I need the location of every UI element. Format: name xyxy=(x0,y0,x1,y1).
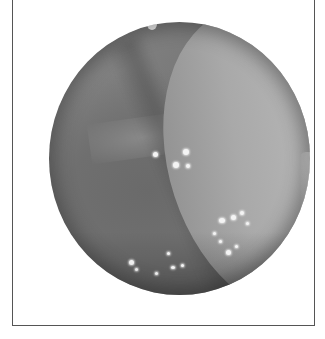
lens-vignette xyxy=(49,22,310,295)
endoscopic-view xyxy=(49,22,310,295)
image-frame xyxy=(12,0,315,326)
